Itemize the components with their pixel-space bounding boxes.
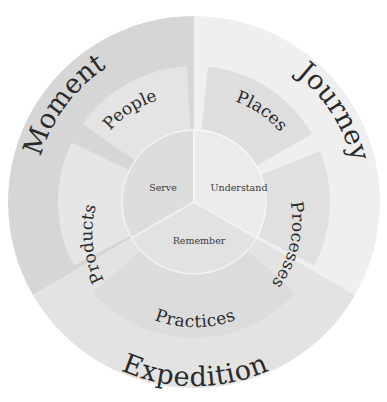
label-remember: Remember xyxy=(173,235,226,246)
label-serve: Serve xyxy=(149,182,177,193)
inner-circle xyxy=(122,130,266,274)
label-understand: Understand xyxy=(211,182,268,193)
concentric-diagram: Moment Journey Expedition People Places … xyxy=(0,0,387,402)
